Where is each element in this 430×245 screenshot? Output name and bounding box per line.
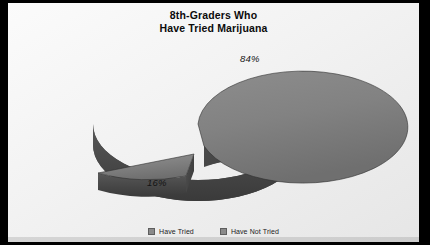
data-label-have-not-tried: 84%: [240, 53, 260, 64]
chart-frame: 8th-Graders Who Have Tried Marijuana: [0, 0, 430, 245]
legend-swatch-icon: [148, 228, 155, 235]
chart-legend: Have Tried Have Not Tried: [8, 227, 419, 236]
legend-label-have-tried: Have Tried: [159, 228, 194, 235]
legend-swatch-icon: [220, 228, 227, 235]
legend-item-have-not-tried[interactable]: Have Not Tried: [220, 228, 279, 235]
bottom-scan-band: [8, 237, 419, 242]
chart-canvas: 8th-Graders Who Have Tried Marijuana: [8, 3, 419, 242]
legend-item-have-tried[interactable]: Have Tried: [148, 228, 194, 235]
chart-title: 8th-Graders Who Have Tried Marijuana: [8, 9, 419, 35]
legend-label-have-not-tried: Have Not Tried: [231, 228, 279, 235]
data-label-have-tried: 16%: [147, 177, 167, 188]
chart-title-line-2: Have Tried Marijuana: [8, 22, 419, 35]
chart-title-line-1: 8th-Graders Who: [8, 9, 419, 22]
pie-chart: [8, 37, 419, 205]
